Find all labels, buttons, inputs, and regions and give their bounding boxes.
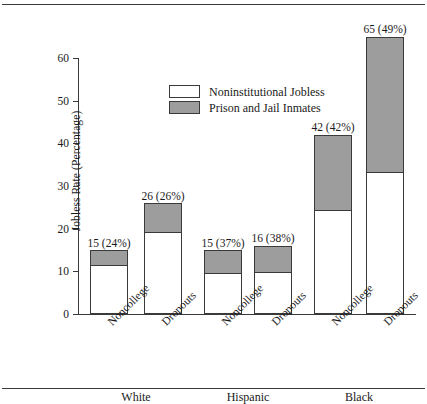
x-axis-group-label: Hispanic [227, 391, 270, 403]
bar-value-label: 42 (42%) [311, 122, 354, 134]
y-axis-tick-label: 30 [58, 181, 70, 193]
bar-segment-noninstitutional-jobless [315, 211, 351, 313]
y-axis-tick: 50 [73, 101, 78, 102]
legend-swatch-icon-jobless [169, 85, 200, 98]
plot-area: 6050403020100 Jobless Rate (Percentage) … [78, 28, 416, 314]
bar-segment-prison-and-jail-inmates [205, 251, 241, 274]
chart-legend: Noninstitutional Jobless Prison and Jail… [169, 84, 325, 116]
y-axis-title: Jobless Rate (Percentage) [70, 111, 82, 232]
figure-top-rule [2, 4, 425, 5]
legend-item-noninstitutional-jobless: Noninstitutional Jobless [169, 84, 325, 99]
bar-segment-prison-and-jail-inmates [315, 136, 351, 211]
stacked-bar: 26 (26%) [144, 203, 182, 314]
y-axis-tick: 10 [73, 271, 78, 272]
y-axis-tick-label: 20 [58, 224, 70, 236]
bar-segment-prison-and-jail-inmates [367, 38, 403, 174]
bar-segment-prison-and-jail-inmates [145, 204, 181, 233]
y-axis-tick-label: 40 [58, 139, 70, 151]
figure-container: 6050403020100 Jobless Rate (Percentage) … [0, 0, 427, 404]
bar-value-label: 26 (26%) [141, 191, 184, 203]
figure-bottom-rule [2, 388, 425, 389]
stacked-bar: 42 (42%) [314, 135, 352, 314]
bar-value-label: 65 (49%) [363, 24, 406, 36]
y-axis-tick-label: 10 [58, 267, 70, 279]
bar-value-label: 15 (37%) [201, 238, 244, 250]
y-axis-tick-label: 0 [63, 309, 69, 321]
y-axis-tick: 0 [73, 314, 78, 315]
x-axis-group-label: White [121, 391, 150, 403]
x-axis-line [78, 314, 416, 315]
legend-label: Noninstitutional Jobless [209, 86, 325, 98]
legend-swatch-icon-inmates [169, 101, 200, 114]
y-axis-tick: 60 [73, 58, 78, 59]
bar-segment-prison-and-jail-inmates [255, 247, 291, 273]
x-axis-group-label: Black [345, 391, 373, 403]
stacked-bar: 65 (49%) [366, 37, 404, 314]
y-axis-tick-label: 50 [58, 96, 70, 108]
bar-value-label: 16 (38%) [251, 233, 294, 245]
legend-item-prison-and-jail-inmates: Prison and Jail Inmates [169, 100, 325, 115]
legend-label: Prison and Jail Inmates [209, 102, 321, 114]
bar-segment-prison-and-jail-inmates [91, 251, 127, 266]
bar-value-label: 15 (24%) [87, 238, 130, 250]
y-axis-tick-label: 60 [58, 53, 70, 65]
